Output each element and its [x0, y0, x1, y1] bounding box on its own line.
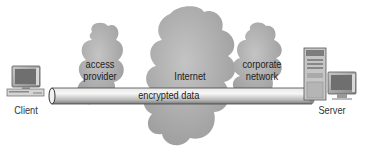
- server-label: Server: [314, 104, 349, 116]
- server-tower-icon: [304, 48, 326, 100]
- client-computer-icon: [7, 66, 44, 96]
- corporate-network-label: corporate network: [237, 58, 286, 82]
- server-monitor-icon: [328, 72, 356, 100]
- encrypted-data-label: encrypted data: [138, 89, 199, 101]
- internet-label: Internet: [164, 70, 217, 82]
- internet-label-text: Internet: [164, 70, 217, 82]
- corporate-network-label-line1: corporate: [237, 58, 286, 70]
- access-provider-label-line1: access: [81, 58, 120, 70]
- corporate-network-label-line2: network: [237, 70, 286, 82]
- client-label: Client: [8, 104, 43, 116]
- access-provider-label: access provider: [81, 58, 120, 82]
- access-provider-label-line2: provider: [81, 70, 120, 82]
- vpn-diagram: access provider Internet corporate netwo…: [0, 0, 367, 166]
